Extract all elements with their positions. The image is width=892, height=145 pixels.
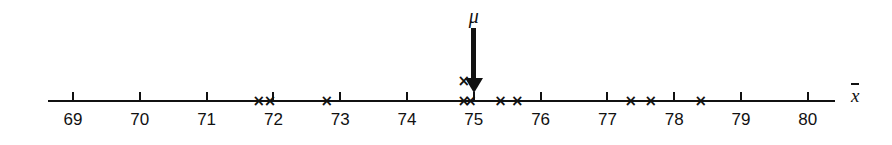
- mu-arrow-head: [465, 78, 483, 93]
- axis-tick: [673, 92, 675, 101]
- axis-tick: [339, 92, 341, 101]
- axis-tick: [72, 92, 74, 101]
- axis-tick: [740, 92, 742, 101]
- axis-tick-label: 77: [598, 111, 617, 128]
- axis-tick-label: 76: [531, 111, 550, 128]
- data-point-mark: ×: [264, 94, 277, 109]
- sampling-distribution-figure: 697071727374757677787980 ××××××××××× μ x: [0, 0, 892, 145]
- mu-label: μ: [469, 6, 479, 26]
- axis-tick: [206, 92, 208, 101]
- data-point-mark: ×: [511, 94, 524, 109]
- axis-tick-label: 74: [398, 111, 417, 128]
- axis-tick: [406, 92, 408, 101]
- axis-tick: [807, 92, 809, 101]
- axis-line: [48, 100, 835, 102]
- axis-tick-label: 69: [64, 111, 83, 128]
- axis-tick: [540, 92, 542, 101]
- data-point-mark: ×: [624, 94, 637, 109]
- data-point-mark: ×: [695, 94, 708, 109]
- axis-tick-label: 73: [331, 111, 350, 128]
- axis-tick-label: 79: [732, 111, 751, 128]
- data-point-mark: ×: [321, 94, 334, 109]
- axis-tick-label: 70: [130, 111, 149, 128]
- axis-tick: [606, 92, 608, 101]
- mu-arrow-shaft: [471, 28, 476, 78]
- x-axis-label: x: [851, 83, 859, 105]
- axis-tick-label: 80: [798, 111, 817, 128]
- x-axis-label-text: x: [851, 85, 859, 106]
- data-point-mark: ×: [494, 94, 507, 109]
- axis-tick-label: 71: [197, 111, 216, 128]
- axis-tick-label: 78: [665, 111, 684, 128]
- axis-tick-label: 75: [464, 111, 483, 128]
- data-point-mark: ×: [645, 94, 658, 109]
- data-point-mark: ×: [464, 94, 477, 109]
- axis-tick-label: 72: [264, 111, 283, 128]
- axis-tick: [139, 92, 141, 101]
